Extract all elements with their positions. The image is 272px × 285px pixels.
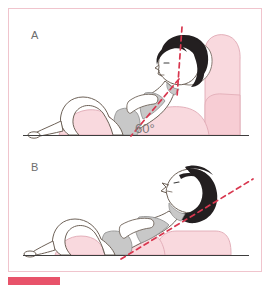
angle-label: 60° — [135, 121, 155, 136]
panel-a: A — [9, 9, 263, 141]
caption-text — [66, 277, 266, 285]
figure-frame: A — [8, 8, 262, 272]
figure-container: A — [0, 0, 272, 285]
panel-b-artwork — [9, 141, 263, 273]
foot — [24, 251, 36, 257]
panel-a-artwork: 60° — [9, 9, 263, 141]
caption-color-bar — [8, 277, 60, 285]
head-cushion — [157, 231, 231, 255]
panel-b: B — [9, 141, 263, 273]
backrest-seat — [205, 94, 240, 135]
